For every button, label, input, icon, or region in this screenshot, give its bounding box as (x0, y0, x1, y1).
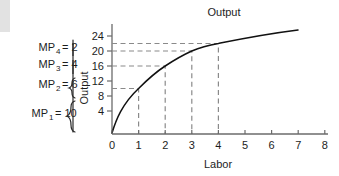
figure-container: Output MP 4 = 2 MP 3 = 4 MP 2 = 6 MP 1 = (0, 0, 339, 176)
y-tick-label-16: 16 (92, 60, 104, 72)
mp3-equals: = 4 (62, 58, 78, 70)
mp4-subscript: 4 (56, 47, 61, 56)
x-tick-label-7: 7 (295, 139, 301, 151)
mp3-subscript: 3 (56, 64, 61, 73)
guide-line-l4 (112, 44, 218, 135)
x-axis-group: 0 1 2 3 4 5 6 7 8 Labor (109, 130, 328, 170)
x-tick-label-1: 1 (136, 139, 142, 151)
production-function-curve (112, 30, 298, 133)
mp3-prefix: MP (39, 58, 56, 70)
x-tick-label-0: 0 (109, 139, 115, 151)
x-axis-label: Labor (204, 158, 232, 170)
guide-line-l1 (112, 89, 139, 135)
x-tick-label-6: 6 (269, 139, 275, 151)
mp4-equals: = 2 (62, 41, 78, 53)
mp2-prefix: MP (39, 78, 56, 90)
guide-lines-group (112, 44, 218, 135)
y-tick-label-8: 8 (98, 90, 104, 102)
guide-line-l3 (112, 51, 192, 134)
x-tick-label-4: 4 (215, 139, 221, 151)
x-tick-label-8: 8 (322, 139, 328, 151)
production-function-chart: Output MP 4 = 2 MP 3 = 4 MP 2 = 6 MP 1 = (0, 0, 339, 176)
mp2-subscript: 2 (56, 84, 61, 93)
y-tick-label-4: 4 (98, 105, 104, 117)
x-tick-label-3: 3 (189, 139, 195, 151)
y-tick-label-20: 20 (92, 45, 104, 57)
y-axis-group: 24 20 16 12 8 4 (92, 24, 112, 134)
mp4-prefix: MP (39, 41, 56, 53)
mp-label-4: MP 4 = 2 (39, 41, 78, 56)
bracket-output-label: Output (78, 71, 90, 104)
y-tick-label-24: 24 (92, 30, 104, 42)
mp1-prefix: MP (32, 107, 49, 119)
x-tick-label-2: 2 (162, 139, 168, 151)
mp-label-3: MP 3 = 4 (39, 58, 78, 73)
chart-title: Output (207, 6, 240, 18)
x-tick-label-5: 5 (242, 139, 248, 151)
mp1-subscript: 1 (49, 113, 54, 122)
y-tick-label-12: 12 (92, 75, 104, 87)
